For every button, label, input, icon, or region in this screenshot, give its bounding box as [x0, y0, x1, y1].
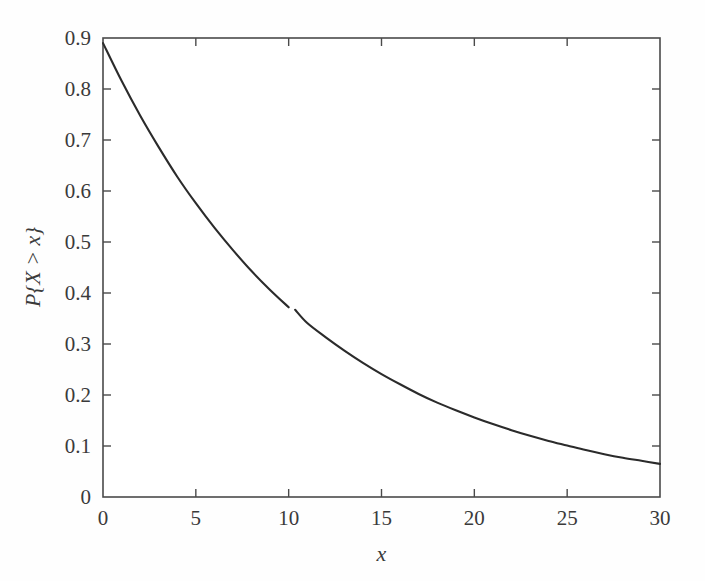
y-axis-tick-labels: 00.10.20.30.40.50.60.70.80.9 [65, 26, 92, 509]
x-tick-label: 15 [371, 506, 392, 530]
y-tick-label: 0.7 [65, 128, 91, 152]
x-axis-tick-labels: 051015202530 [98, 506, 671, 530]
y-tick-label: 0.8 [65, 77, 91, 101]
y-tick-label: 0.5 [65, 230, 91, 254]
y-tick-label: 0.3 [65, 332, 91, 356]
y-tick-label: 0.9 [65, 26, 91, 50]
x-axis-title: x [376, 541, 387, 566]
x-tick-label: 0 [98, 506, 109, 530]
x-tick-label: 25 [557, 506, 578, 530]
x-tick-label: 20 [464, 506, 485, 530]
y-tick-label: 0 [81, 485, 92, 509]
x-tick-label: 30 [650, 506, 671, 530]
chart-canvas: 051015202530 00.10.20.30.40.50.60.70.80.… [0, 0, 705, 581]
x-tick-label: 10 [278, 506, 299, 530]
x-tick-label: 5 [191, 506, 202, 530]
figure-container: 051015202530 00.10.20.30.40.50.60.70.80.… [0, 0, 705, 581]
y-tick-label: 0.6 [65, 179, 91, 203]
y-tick-label: 0.1 [65, 434, 91, 458]
y-axis-title: P{X > x} [20, 227, 45, 308]
y-tick-label: 0.2 [65, 383, 91, 407]
y-tick-label: 0.4 [65, 281, 92, 305]
plot-background [103, 38, 660, 497]
